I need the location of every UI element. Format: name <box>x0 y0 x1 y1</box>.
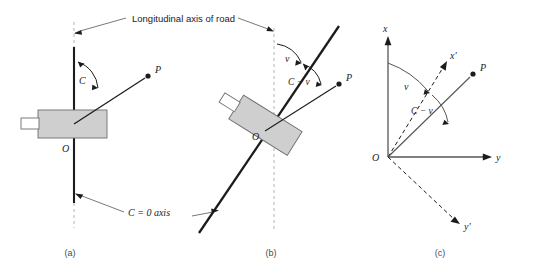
longitudinal-axis-annotation: Longitudinal axis of road <box>132 13 235 24</box>
panel-c-x-prime-arrowhead <box>440 61 447 71</box>
panel-a-angle-arc-head-end <box>92 84 98 90</box>
panel-c-point-p-marker <box>470 71 475 76</box>
panel-c-angle-label-v: v <box>404 81 409 92</box>
panel-c-angle-arc-cv <box>432 95 448 122</box>
panel-b-angle-label-v: v <box>285 53 290 64</box>
panel-c: x y x' y' P O v C − v (c) <box>372 23 501 258</box>
panel-b-vehicle-body <box>229 95 302 155</box>
panel-c-ray-to-p <box>388 77 470 157</box>
panel-b-point-p-label: P <box>345 72 352 83</box>
panel-a-vehicle-tab <box>21 118 39 129</box>
panel-b-leader-longitudinal-arrowhead <box>266 26 274 31</box>
panel-c-x-prime-label: x' <box>449 50 457 61</box>
panel-a-point-p-label: P <box>154 64 161 75</box>
heading-angle-diagram: P O C (a) Longitudinal axis of road C = … <box>0 0 534 277</box>
panel-c-point-p-label: P <box>479 62 486 73</box>
panel-b-angle-label-cv: C − v <box>288 77 310 87</box>
c-zero-axis-annotation: C = 0 axis <box>128 207 170 218</box>
panel-a-origin-label: O <box>62 143 69 154</box>
panel-b-point-p-marker <box>336 81 341 86</box>
panel-b: P O v C − v (b) <box>192 18 352 258</box>
panel-c-origin-label: O <box>372 152 379 163</box>
panel-c-x-axis-arrowhead <box>385 36 392 45</box>
panel-a-leader-longitudinal <box>80 18 126 31</box>
panel-b-origin-label: O <box>252 131 259 142</box>
panel-c-y-prime-axis <box>388 157 455 220</box>
panel-c-angle-label-cv: C − v <box>411 106 433 116</box>
panel-b-ray-to-p <box>265 86 336 131</box>
panel-c-y-axis-arrowhead <box>483 154 492 161</box>
panel-a-leader-czero <box>82 196 124 212</box>
panel-c-y-axis-label: y <box>495 152 501 163</box>
panel-c-x-axis-label: x <box>382 23 388 34</box>
panel-a-point-p-marker <box>145 73 150 78</box>
panel-b-caption: (b) <box>266 248 277 258</box>
panel-c-y-prime-label: y' <box>463 221 471 232</box>
panel-a-leader-czero-arrowhead <box>75 194 83 200</box>
panel-a-vehicle-body <box>38 110 107 138</box>
panel-b-leader-longitudinal <box>238 18 268 29</box>
panel-a-caption: (a) <box>65 248 76 258</box>
panel-c-y-prime-arrowhead <box>451 217 461 224</box>
panel-a: P O C (a) <box>21 18 161 258</box>
panel-c-caption: (c) <box>435 248 446 258</box>
panel-a-angle-label-c: C <box>79 75 86 86</box>
